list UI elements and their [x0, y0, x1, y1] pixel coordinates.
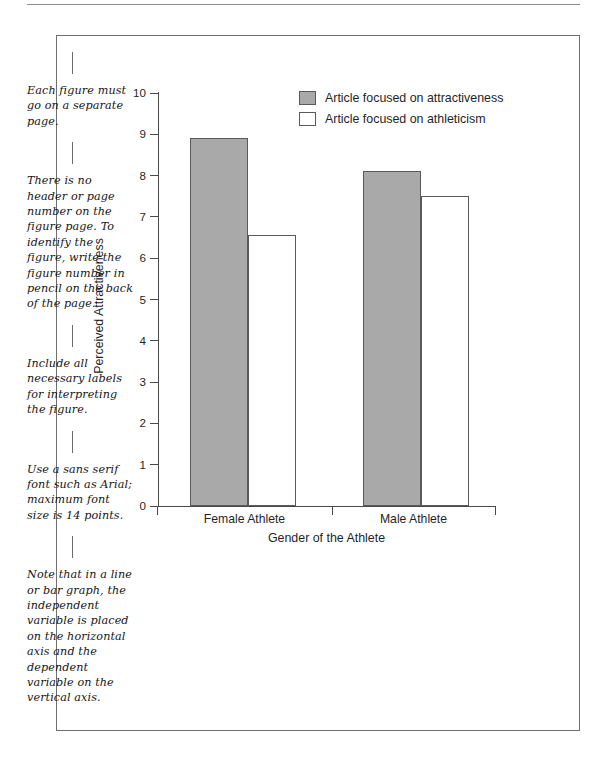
y-axis-tick-label: 8	[108, 170, 146, 182]
y-axis-tick-label: 9	[108, 128, 146, 140]
x-axis-line	[157, 506, 495, 507]
bar	[190, 138, 248, 506]
chart-legend: Article focused on attractiveness Articl…	[299, 88, 503, 130]
x-axis-title: Gender of the Athlete	[158, 531, 495, 545]
y-axis-tick-label: 2	[108, 417, 146, 429]
bar	[363, 171, 421, 506]
y-axis-tick-label: 7	[108, 211, 146, 223]
legend-item: Article focused on athleticism	[299, 109, 503, 128]
x-axis-tick	[332, 506, 333, 515]
legend-label: Article focused on athleticism	[325, 112, 485, 126]
y-axis-tick	[150, 423, 158, 424]
x-axis-category-label: Male Athlete	[334, 512, 494, 526]
y-axis-tick-label: 5	[108, 294, 146, 306]
y-axis-tick-label: 1	[108, 459, 146, 471]
bar	[421, 196, 469, 506]
x-axis-category-label: Female Athlete	[165, 512, 325, 526]
y-axis-title: Perceived Attractiveness	[92, 196, 106, 416]
legend-swatch-icon	[299, 91, 316, 105]
y-axis-tick	[150, 93, 158, 94]
y-axis-tick	[150, 175, 158, 176]
legend-item: Article focused on attractiveness	[299, 88, 503, 107]
y-axis-tick	[150, 216, 158, 217]
y-axis-tick-label: 0	[108, 500, 146, 512]
y-axis-tick-label: 3	[108, 376, 146, 388]
legend-swatch-icon	[299, 112, 316, 126]
x-axis-tick	[495, 506, 496, 515]
x-axis-tick	[157, 506, 158, 515]
y-axis-tick	[150, 340, 158, 341]
y-axis-tick-label: 6	[108, 252, 146, 264]
bar	[248, 235, 296, 506]
legend-label: Article focused on attractiveness	[325, 91, 503, 105]
y-axis-line	[158, 92, 159, 507]
y-axis-tick-label: 4	[108, 335, 146, 347]
y-axis-tick	[150, 134, 158, 135]
y-axis-tick	[150, 382, 158, 383]
bar-chart: 012345678910 Perceived Attractiveness Fe…	[0, 0, 599, 758]
y-axis-tick	[150, 464, 158, 465]
y-axis-tick	[150, 258, 158, 259]
y-axis-tick-label: 10	[108, 87, 146, 99]
y-axis-tick	[150, 299, 158, 300]
